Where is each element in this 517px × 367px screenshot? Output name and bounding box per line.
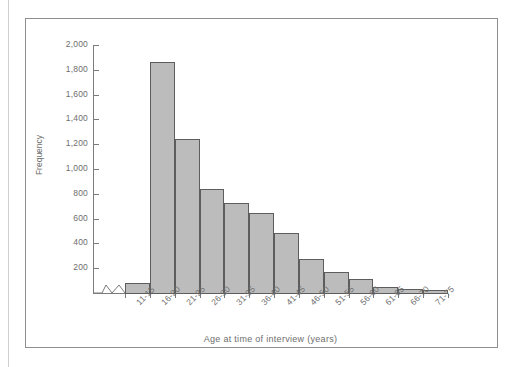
y-axis-tick-label: 1,000	[42, 163, 88, 174]
y-axis-tick-label: 200	[42, 262, 88, 273]
histogram-bar	[274, 233, 299, 294]
y-axis-tick	[94, 144, 99, 145]
y-axis-tick-label: 1,400	[42, 113, 88, 124]
y-axis-tick	[94, 119, 99, 120]
y-axis-tick-label: 2,000	[42, 39, 88, 50]
y-axis-tick-label: 600	[42, 213, 88, 224]
x-axis-title: Age at time of interview (years)	[93, 334, 448, 344]
histogram-chart: Frequency 2004006008001,0001,2001,4001,6…	[0, 0, 517, 367]
y-axis-tick-label-text: 600	[44, 213, 88, 223]
y-axis-tick-label-text: 200	[44, 262, 88, 272]
y-axis-tick-label-text: 400	[44, 237, 88, 247]
histogram-bar	[175, 139, 200, 294]
histogram-bar	[150, 62, 175, 294]
y-axis-tick	[94, 268, 99, 269]
axis-break-icon	[93, 282, 125, 296]
y-axis-tick-label: 400	[42, 237, 88, 248]
y-axis-tick	[94, 194, 99, 195]
y-axis-tick-label: 1,200	[42, 138, 88, 149]
y-axis-tick-label: 1,600	[42, 89, 88, 100]
y-axis-tick	[94, 95, 99, 96]
y-axis-tick-label-text: 1,200	[44, 138, 88, 148]
y-axis-tick	[94, 45, 99, 46]
y-axis-tick	[94, 169, 99, 170]
histogram-bar	[200, 189, 225, 294]
histogram-bar	[224, 203, 249, 294]
y-axis-tick-label: 800	[42, 188, 88, 199]
y-axis-tick	[94, 219, 99, 220]
y-axis-tick	[94, 70, 99, 71]
y-axis-tick-label-text: 1,000	[44, 163, 88, 173]
y-axis-tick-label-text: 1,800	[44, 64, 88, 74]
bar-series	[125, 45, 448, 294]
histogram-bar	[249, 213, 274, 294]
y-axis-tick-label: 1,800	[42, 64, 88, 75]
x-axis-tick	[125, 294, 126, 298]
y-axis-tick-label-text: 1,400	[44, 113, 88, 123]
y-axis-tick	[94, 243, 99, 244]
y-axis-tick-label-text: 800	[44, 188, 88, 198]
y-axis-tick-label-text: 1,600	[44, 89, 88, 99]
y-axis-tick-label-text: 2,000	[44, 39, 88, 49]
